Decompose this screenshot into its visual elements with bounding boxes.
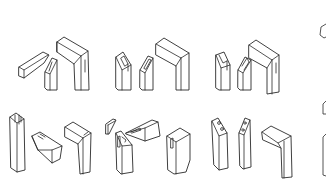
row2-group6-mitered-corner xyxy=(262,126,292,178)
row1-group1-assembled-corner xyxy=(57,37,89,90)
row2-group6-pinned-post-b xyxy=(239,118,251,169)
row2-group5-wedge xyxy=(106,119,116,134)
row1-group1-slotted-post xyxy=(45,58,57,90)
row2-group4-forked-post xyxy=(10,113,25,172)
row1-group1-tenon-piece xyxy=(19,52,49,78)
row2-group5-mortised-post xyxy=(116,131,133,174)
row1-group3-assembled-corner xyxy=(249,40,279,94)
row1-group2-assembled-corner xyxy=(156,38,189,90)
row1-group2-notched-post-a xyxy=(116,52,131,90)
row2-group5-slotted-block xyxy=(126,120,160,141)
row2-group5-assembled-corner xyxy=(167,128,190,174)
row2-group4-angled-tenon-block xyxy=(32,132,62,163)
row1-partial-shape xyxy=(320,24,326,38)
row1-group3-double-tenon-post-a xyxy=(216,52,230,90)
row1-group2-notched-post-b xyxy=(140,56,153,90)
row1-group3-double-tenon-post-b xyxy=(238,57,251,90)
row2-group6-pinned-post-a xyxy=(212,118,228,170)
joinery-diagram xyxy=(0,0,326,179)
row2-group4-assembled-corner xyxy=(65,122,91,174)
